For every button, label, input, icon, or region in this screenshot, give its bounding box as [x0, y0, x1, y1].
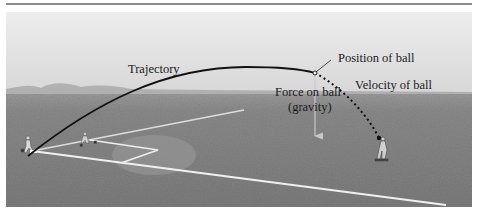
- infield-dirt: [112, 135, 196, 175]
- velocity-of-ball-label: Velocity of ball: [355, 79, 432, 92]
- top-rule: [6, 3, 472, 5]
- force-on-ball-label: Force on ball: [275, 86, 341, 99]
- gravity-label: (gravity): [288, 101, 332, 114]
- baseball-trajectory-figure: Trajectory Position of ball Velocity of …: [6, 12, 472, 207]
- trajectory-label: Trajectory: [128, 63, 180, 76]
- position-of-ball-label: Position of ball: [338, 52, 414, 65]
- ball-in-glove: [377, 136, 381, 140]
- scene-illustration: [6, 12, 472, 207]
